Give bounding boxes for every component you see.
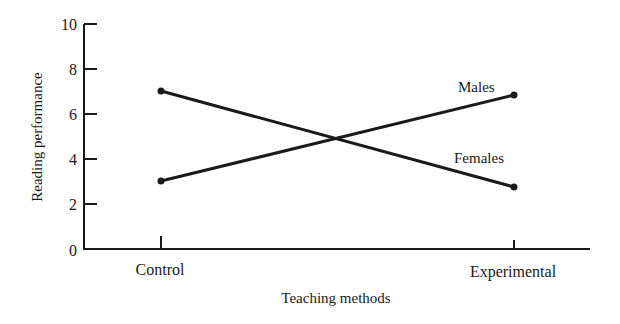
point-males-experimental — [511, 92, 518, 99]
series-label-males: Males — [458, 79, 495, 95]
y-tick-10: 10 — [61, 16, 77, 33]
y-tick-4: 4 — [69, 151, 77, 168]
y-axis-title: Reading performance — [29, 72, 45, 202]
point-females-control — [158, 88, 165, 95]
series-line-females — [161, 91, 514, 187]
y-tick-0: 0 — [69, 242, 77, 259]
y-tick-8: 8 — [69, 61, 77, 78]
y-tick-2: 2 — [69, 196, 77, 213]
x-tick-control: Control — [136, 261, 185, 278]
y-ticks — [84, 24, 97, 204]
x-tick-experimental: Experimental — [470, 263, 557, 281]
series-label-females: Females — [454, 150, 504, 166]
x-ticks — [161, 236, 514, 249]
y-tick-labels: 10 8 6 4 2 0 — [61, 16, 77, 259]
x-axis-title: Teaching methods — [281, 290, 390, 306]
chart: 10 8 6 4 2 0 Control Experimental Teachi… — [0, 0, 620, 324]
point-females-experimental — [511, 184, 518, 191]
point-males-control — [158, 178, 165, 185]
y-tick-6: 6 — [69, 106, 77, 123]
